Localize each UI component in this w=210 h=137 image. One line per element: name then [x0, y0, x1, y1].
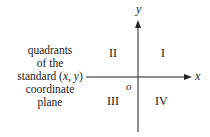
- y-axis: [135, 20, 141, 132]
- caption-line: standard (x, y): [8, 70, 92, 83]
- x-axis-arrow-icon: [184, 74, 192, 80]
- caption-line: of the: [8, 57, 92, 70]
- y-axis-arrow-icon: [135, 20, 141, 28]
- caption-line: plane: [8, 96, 92, 109]
- quadrant-1-label: I: [161, 46, 165, 61]
- diagram-caption: quadrants of the standard (x, y) coordin…: [8, 44, 92, 109]
- x-axis: [100, 74, 192, 80]
- quadrant-4-label: IV: [155, 94, 168, 109]
- quadrant-2-label: II: [109, 46, 117, 61]
- y-axis-label: y: [136, 2, 141, 17]
- quadrant-3-label: III: [107, 94, 119, 109]
- caption-line: coordinate: [8, 83, 92, 96]
- x-axis-label: x: [195, 69, 200, 84]
- caption-line: quadrants: [8, 44, 92, 57]
- origin-label: o: [126, 80, 132, 92]
